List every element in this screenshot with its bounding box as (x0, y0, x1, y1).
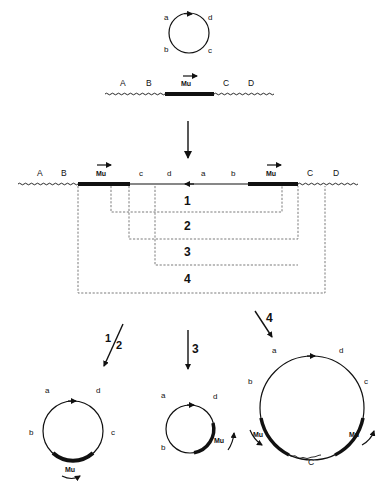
host-dna-left (105, 93, 165, 95)
mu-segment (53, 453, 93, 461)
label-d: d (339, 346, 343, 355)
host-dna-right (214, 93, 274, 95)
mu-label: Mu (214, 437, 224, 444)
label-c: c (364, 377, 368, 386)
bracket-1 (111, 186, 282, 212)
label-b: b (164, 45, 169, 54)
label-b: b (29, 428, 34, 437)
label-d: d (208, 13, 212, 22)
step-label: 3 (192, 342, 199, 356)
mu-orientation-arrow-icon (62, 476, 80, 479)
host-chromosome: A B C D Mu (105, 76, 274, 95)
mu-left-label: Mu (253, 431, 263, 438)
plasmid-circle (43, 401, 103, 461)
label-a: a (161, 391, 166, 400)
label-a: a (201, 169, 206, 178)
bracket-3 (155, 186, 298, 265)
label-D: D (248, 78, 254, 88)
product-3: 3 a d b Mu (161, 330, 234, 453)
top-plasmid: a d b c (164, 13, 212, 55)
plasmid-circle (169, 13, 209, 53)
label-a: a (272, 346, 277, 355)
label-A: A (37, 168, 43, 178)
event-label-2: 2 (184, 219, 191, 233)
mu-orientation-arrow-icon (228, 433, 234, 450)
label-c: c (139, 169, 143, 178)
label-A: A (120, 78, 126, 88)
mu-right-orientation-arrow-icon (362, 431, 374, 445)
label-d: d (167, 169, 171, 178)
event-label-4: 4 (184, 272, 191, 286)
recombination-brackets: 1 2 3 4 (78, 186, 325, 293)
label-c: c (111, 428, 115, 437)
mu-left-label: Mu (96, 170, 106, 177)
mu-label: Mu (65, 466, 75, 473)
label-b: b (248, 377, 253, 386)
label-C: C (223, 78, 229, 88)
label-b: b (161, 443, 166, 452)
step-label: 4 (266, 311, 273, 325)
label-c: c (208, 46, 212, 55)
step-label-denominator: 2 (116, 339, 122, 351)
label-b: b (231, 169, 236, 178)
label-a: a (45, 386, 50, 395)
mu-segment (194, 423, 214, 453)
bracket-2 (129, 186, 298, 239)
mu-right-label: Mu (349, 431, 359, 438)
label-a: a (164, 13, 169, 22)
mu-label: Mu (181, 80, 191, 87)
label-d: d (213, 392, 217, 401)
mu-segment-left (261, 418, 289, 455)
host-dna-left (18, 183, 78, 185)
transposition-diagram: a d b c A B C D Mu A B Mu c d a b Mu C D (0, 0, 388, 486)
product-1-2: 1 2 a d b c Mu (29, 324, 123, 479)
event-label-1: 1 (184, 194, 191, 208)
label-B: B (146, 78, 152, 88)
host-dna-right (298, 183, 358, 185)
label-C: C (307, 168, 313, 178)
label-C: C (308, 457, 314, 467)
label-D: D (333, 168, 339, 178)
bracket-4 (78, 186, 325, 293)
cointegrate: A B Mu c d a b Mu C D (18, 165, 358, 185)
label-B: B (61, 168, 67, 178)
event-label-3: 3 (184, 245, 191, 259)
mu-right-label: Mu (266, 170, 276, 177)
step-label-numerator: 1 (105, 332, 111, 344)
product-4: 4 a d b c C Mu Mu (248, 311, 374, 467)
label-d: d (96, 386, 100, 395)
